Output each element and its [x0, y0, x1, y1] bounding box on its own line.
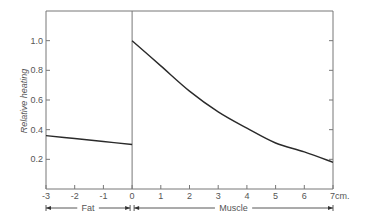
y-tick-label: 0.4 — [30, 125, 43, 135]
y-tick-label: 0.2 — [30, 154, 43, 164]
region-arrow-start — [46, 206, 51, 210]
series-line-fat — [46, 136, 132, 145]
x-axis-ticks: -3-2-101234567cm. — [42, 185, 350, 201]
relative-heating-chart: 0.20.40.60.81.0 -3-2-101234567cm. Relati… — [0, 0, 365, 220]
y-axis-title: Relative heating — [19, 69, 29, 134]
x-tick-label: -3 — [42, 191, 50, 201]
x-tick-label: 3 — [216, 191, 221, 201]
region-label-muscle: Muscle — [219, 203, 248, 213]
region-label-fat: Fat — [82, 203, 96, 213]
region-dimension-lines: FatMuscle — [46, 203, 333, 213]
x-tick-label: 5 — [273, 191, 278, 201]
x-tick-label: -1 — [99, 191, 107, 201]
series-line-muscle — [132, 41, 333, 163]
plot-frame — [46, 11, 333, 189]
y-axis-ticks: 0.20.40.60.81.0 — [30, 36, 333, 165]
y-tick-label: 0.8 — [30, 65, 43, 75]
region-arrow-end — [125, 206, 130, 210]
x-tick-label: 4 — [244, 191, 249, 201]
x-tick-label: 2 — [187, 191, 192, 201]
x-tick-label: 6 — [302, 191, 307, 201]
x-tick-label: 0 — [130, 191, 135, 201]
data-series — [46, 41, 333, 163]
y-tick-label: 1.0 — [30, 36, 43, 46]
x-tick-label: 7cm. — [330, 191, 350, 201]
x-tick-label: 1 — [158, 191, 163, 201]
x-tick-label: -2 — [71, 191, 79, 201]
region-arrow-end — [328, 206, 333, 210]
region-arrow-start — [134, 206, 139, 210]
y-tick-label: 0.6 — [30, 95, 43, 105]
